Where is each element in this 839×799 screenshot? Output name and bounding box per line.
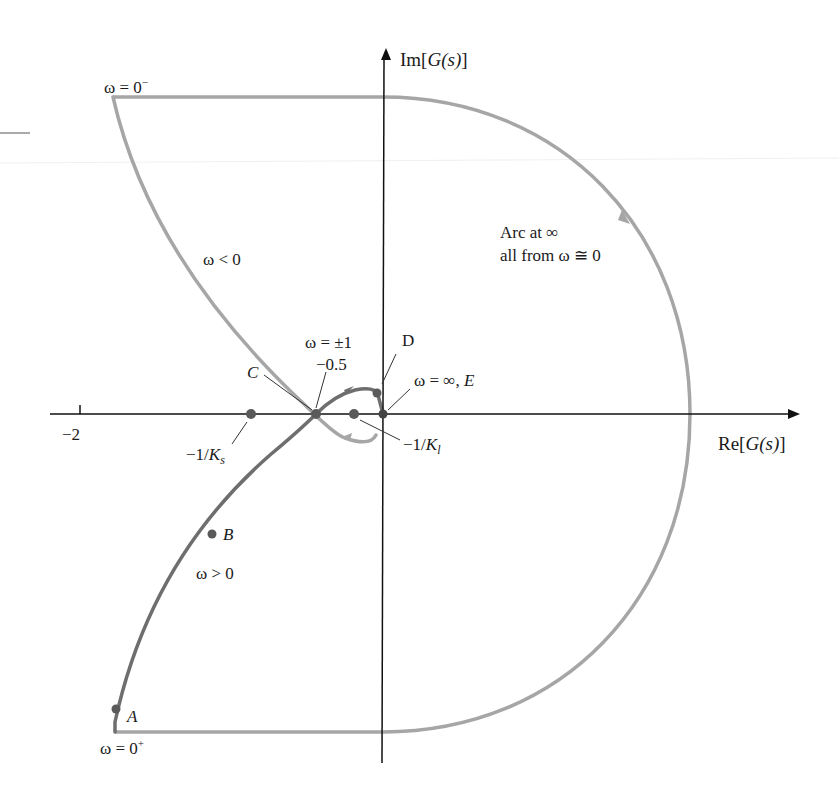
omega-zero-minus-text: ω = 0 [104, 78, 142, 97]
point-d-label: D [402, 332, 414, 349]
omega-zero-plus-label: ω = 0+ [100, 738, 144, 757]
leader-kl [360, 420, 400, 440]
omega-positive-label: ω > 0 [196, 565, 234, 582]
point-d-marker [373, 389, 382, 398]
omega-negative-label: ω < 0 [203, 251, 241, 268]
point-b-marker [208, 530, 217, 539]
minus-half-label: −0.5 [316, 356, 347, 373]
omega-zero-plus-text: ω = 0 [100, 739, 138, 758]
im-axis-var: G(s) [427, 49, 461, 70]
ks-prefix: −1/ [186, 445, 209, 464]
re-axis-prefix: Re[ [718, 433, 745, 454]
tick-minus2-label: −2 [62, 426, 80, 443]
kl-k: K [426, 435, 437, 454]
ks-k: K [209, 445, 220, 464]
point-b-label: B [223, 526, 233, 543]
omega-infinity-text: ω = ∞, [414, 371, 464, 390]
point-e-marker [379, 410, 388, 419]
point-c-marker [311, 409, 321, 419]
omega-pm1-label: ω = ±1 [305, 334, 352, 351]
positive-frequency-curve [115, 389, 383, 732]
point-kl-marker [349, 409, 359, 419]
real-axis-label: Re[G(s)] [718, 434, 786, 453]
re-axis-suffix: ] [779, 433, 785, 454]
leader-c [264, 375, 312, 410]
imaginary-axis-label: Im[G(s)] [400, 50, 468, 69]
point-a-label: A [127, 708, 137, 725]
kl-sub: l [437, 443, 440, 457]
omega-zero-minus-sup: − [142, 76, 148, 88]
leader-ks [232, 422, 247, 444]
arc-label-line1: Arc at ∞ [500, 224, 558, 241]
ks-sub: s [220, 453, 225, 467]
kl-label: −1/Kl [403, 436, 441, 456]
imaginary-axis-arrow-icon [381, 48, 391, 60]
nyquist-diagram [0, 0, 839, 799]
point-c-label: C [247, 364, 258, 381]
scan-artifact [0, 158, 839, 163]
point-e-label: E [464, 371, 474, 390]
kl-prefix: −1/ [403, 435, 426, 454]
point-ks-marker [246, 409, 256, 419]
arc-label-line2: all from ω ≅ 0 [500, 247, 601, 264]
im-axis-prefix: Im[ [400, 49, 427, 70]
leader-minus-half [316, 372, 326, 408]
leader-e [388, 389, 410, 410]
omega-zero-plus-sup: + [138, 737, 144, 749]
leader-d [382, 354, 396, 384]
ks-label: −1/Ks [186, 446, 225, 466]
omega-infinity-e-label: ω = ∞, E [414, 372, 474, 389]
point-a-marker [112, 705, 121, 714]
im-axis-suffix: ] [461, 49, 467, 70]
omega-zero-minus-label: ω = 0− [104, 77, 148, 96]
re-axis-var: G(s) [745, 433, 779, 454]
negative-frequency-curve [113, 97, 376, 442]
real-axis-arrow-icon [788, 409, 800, 419]
